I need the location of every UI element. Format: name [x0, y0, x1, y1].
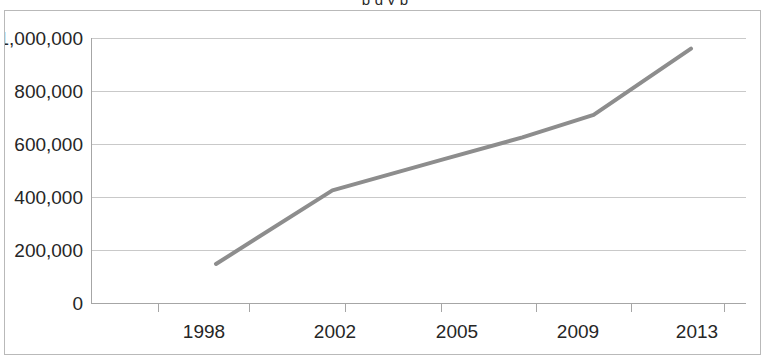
y-tick-label: 600,000	[14, 134, 83, 155]
x-tick-label: 2005	[436, 321, 478, 342]
chart-container: 1,000,000 800,000 600,000 400,000 200,00…	[4, 10, 761, 355]
line-chart: 1,000,000 800,000 600,000 400,000 200,00…	[5, 11, 760, 354]
y-tick-label: 400,000	[14, 187, 83, 208]
data-series-line	[216, 49, 691, 264]
y-tick-label: 800,000	[14, 81, 83, 102]
x-tick-label: 2009	[557, 321, 599, 342]
x-tick-label: 2013	[676, 321, 718, 342]
x-axis-tick-labels: 1998 2002 2005 2009 2013	[183, 321, 718, 342]
y-tick-label: 200,000	[14, 240, 83, 261]
y-tick-label: 0	[72, 293, 83, 314]
x-tick-marks	[158, 303, 724, 312]
y-tick-label: 1,000,000	[5, 28, 83, 49]
x-tick-label: 2002	[314, 321, 356, 342]
x-tick-label: 1998	[183, 321, 225, 342]
clipped-caption-above-figure: p g y p	[0, 0, 770, 5]
y-axis-tick-labels: 1,000,000 800,000 600,000 400,000 200,00…	[5, 28, 83, 314]
